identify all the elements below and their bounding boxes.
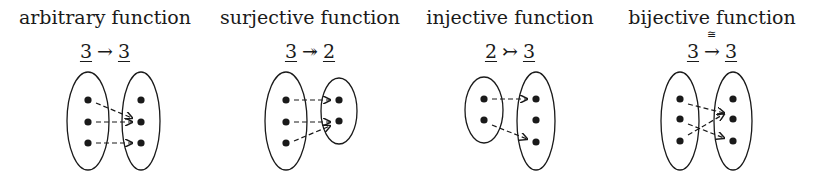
codomain-set — [321, 78, 357, 144]
domain-set — [465, 77, 503, 143]
mapping-diagram — [0, 0, 210, 176]
mapping-diagram — [610, 0, 814, 176]
mapping-diagram — [410, 0, 610, 176]
panel-bijective-function: bijective function 3≅→3 — [610, 0, 814, 176]
panel-arbitrary-function: arbitrary function 3→3 — [0, 0, 210, 176]
panel-surjective-function: surjective function 3↠2 — [210, 0, 410, 176]
mapping-diagram — [210, 0, 410, 176]
panel-injective-function: injective function 2↣3 — [410, 0, 610, 176]
